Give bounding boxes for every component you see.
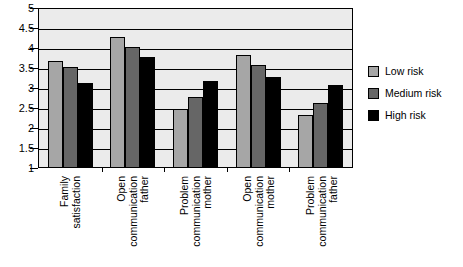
x-axis-label-cell: Opencommunicationmother xyxy=(227,176,290,264)
y-tick-mark xyxy=(30,168,38,169)
x-axis-label-cell: Familysatisfaction xyxy=(38,176,101,264)
x-axis-label-line: Problem xyxy=(178,176,190,247)
y-axis: 54.543.532.521.51 xyxy=(0,8,34,168)
plot-area xyxy=(38,8,353,168)
x-axis-label-line: satisfaction xyxy=(70,176,82,229)
x-axis-label: Familysatisfaction xyxy=(58,176,81,229)
bar-group xyxy=(289,9,352,167)
bar-low xyxy=(236,55,251,167)
legend-label: High risk xyxy=(385,109,426,121)
bar-low xyxy=(173,109,188,167)
bar-low xyxy=(48,61,63,167)
legend-label: Low risk xyxy=(385,65,424,77)
x-tick-mark xyxy=(227,167,228,172)
legend-item[interactable]: Medium risk xyxy=(368,82,460,104)
x-axis-label-line: mother xyxy=(201,176,213,247)
bar-med xyxy=(251,65,266,167)
grouped-bar-chart: 54.543.532.521.51 FamilysatisfactionOpen… xyxy=(0,0,463,267)
bar-low xyxy=(110,37,125,167)
x-axis-label-line: Family xyxy=(58,176,70,229)
bar-med xyxy=(313,103,328,167)
legend-swatch-icon xyxy=(368,66,379,77)
x-axis-label-line: father xyxy=(138,176,150,247)
bar-group xyxy=(39,9,102,167)
x-axis-label-cell: Opencommunicationfather xyxy=(101,176,164,264)
y-tick-mark xyxy=(30,8,38,9)
y-tick-mark xyxy=(30,68,38,69)
x-axis-label-line: communication xyxy=(190,176,202,247)
bars-layer xyxy=(39,9,352,167)
x-axis-labels: FamilysatisfactionOpencommunicationfathe… xyxy=(38,176,353,264)
x-axis-label-cell: Problemcommunicationfather xyxy=(290,176,353,264)
legend-item[interactable]: High risk xyxy=(368,104,460,126)
bar-high xyxy=(266,77,281,167)
bar-high xyxy=(328,85,343,167)
x-axis-label-line: communication xyxy=(253,176,265,247)
x-axis-label-line: communication xyxy=(127,176,139,247)
x-axis-label-cell: Problemcommunicationmother xyxy=(164,176,227,264)
bar-group xyxy=(227,9,290,167)
bar-med xyxy=(188,97,203,167)
x-axis-label-line: mother xyxy=(264,176,276,247)
legend-swatch-icon xyxy=(368,110,379,121)
y-tick-mark xyxy=(30,48,38,49)
x-tick-mark xyxy=(164,167,165,172)
bar-group xyxy=(102,9,165,167)
legend: Low riskMedium riskHigh risk xyxy=(368,60,460,126)
x-axis-label: Opencommunicationfather xyxy=(115,176,150,247)
bar-high xyxy=(203,81,218,167)
x-tick-mark xyxy=(289,167,290,172)
bar-group xyxy=(164,9,227,167)
x-axis-label-line: Open xyxy=(241,176,253,247)
x-axis-label-line: Open xyxy=(115,176,127,247)
legend-swatch-icon xyxy=(368,88,379,99)
x-axis-label: Opencommunicationmother xyxy=(241,176,276,247)
y-tick-mark xyxy=(30,108,38,109)
bar-low xyxy=(298,115,313,167)
legend-item[interactable]: Low risk xyxy=(368,60,460,82)
bar-med xyxy=(125,47,140,167)
y-tick-mark xyxy=(30,88,38,89)
bar-high xyxy=(140,57,155,167)
x-axis-label-line: Problem xyxy=(304,176,316,247)
bar-high xyxy=(78,83,93,167)
x-axis-label-line: communication xyxy=(316,176,328,247)
x-axis-label: Problemcommunicationmother xyxy=(178,176,213,247)
x-axis-label-line: father xyxy=(327,176,339,247)
y-tick-mark xyxy=(30,28,38,29)
x-tick-mark xyxy=(102,167,103,172)
y-tick-mark xyxy=(30,128,38,129)
bar-med xyxy=(63,67,78,167)
x-axis-label: Problemcommunicationfather xyxy=(304,176,339,247)
legend-label: Medium risk xyxy=(385,87,442,99)
y-tick-mark xyxy=(30,148,38,149)
